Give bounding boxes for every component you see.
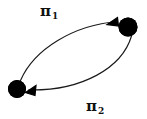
edge-pi2-curve — [29, 36, 132, 90]
edges-group — [21, 18, 132, 96]
edge-pi1-arrowhead — [107, 18, 119, 27]
pi-subscript: 1 — [51, 11, 58, 21]
nodes-group — [8, 18, 138, 99]
pi-glyph: π — [40, 2, 51, 20]
graph-svg — [0, 0, 147, 119]
edge-label-pi2: π2 — [86, 98, 104, 116]
edge-label-pi1: π1 — [40, 3, 58, 21]
node-top-right-hit — [119, 18, 138, 37]
edge-pi2-arrowhead — [26, 86, 37, 96]
node-bottom-left-hit — [8, 80, 26, 98]
pi-glyph: π — [86, 97, 97, 115]
diagram-canvas: π1 π2 — [0, 0, 147, 119]
pi-subscript: 2 — [97, 106, 104, 116]
